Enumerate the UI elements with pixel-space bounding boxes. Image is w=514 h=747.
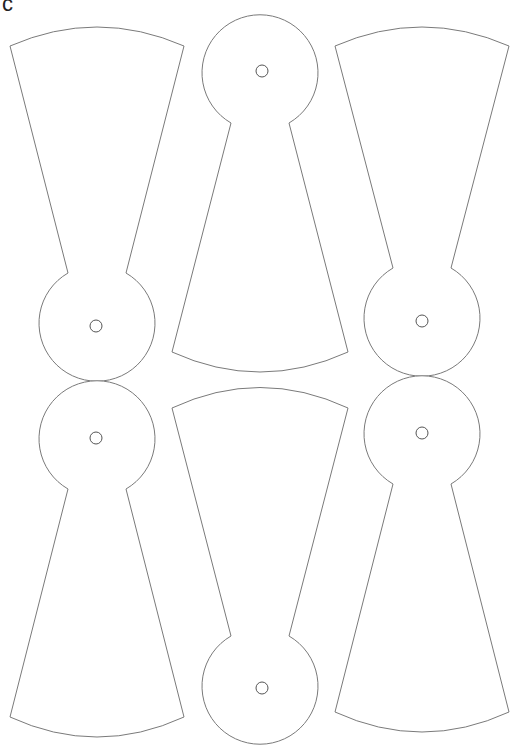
keyhole-shape-5 <box>172 388 348 745</box>
template-sheet <box>0 0 514 747</box>
keyhole-shape-4 <box>10 381 184 737</box>
hole-icon <box>90 320 102 332</box>
hole-icon <box>416 427 428 439</box>
keyhole-shape-6 <box>335 376 509 732</box>
hole-icon <box>416 315 428 327</box>
keyhole-shape-3 <box>335 27 509 376</box>
keyhole-shape-2 <box>172 15 348 372</box>
keyhole-shape-1 <box>10 27 184 381</box>
hole-icon <box>256 682 268 694</box>
hole-icon <box>256 65 268 77</box>
hole-icon <box>90 432 102 444</box>
